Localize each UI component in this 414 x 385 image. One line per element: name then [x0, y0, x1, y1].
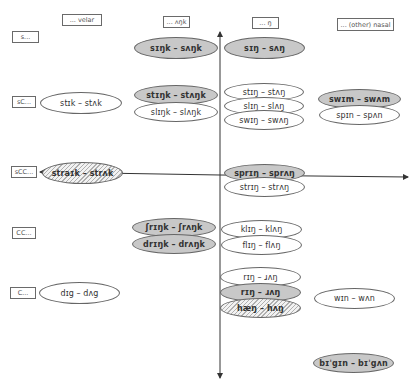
diagram-canvas: ... velar ... ʌŋk ... ŋ ... (other) nasa… [0, 0, 414, 385]
item-text: klɪŋ – klʌŋ [241, 225, 283, 234]
row-label-text: sCC... [15, 168, 34, 176]
column-header-label: ... ʌŋk [167, 18, 187, 26]
column-header-ank: ... ʌŋk [163, 16, 190, 28]
column-header-other-nasal: ... (other) nasal [337, 18, 394, 31]
item-string: strɪŋ – strʌŋ [224, 177, 305, 197]
item-stick: stɪk – stʌk [40, 92, 122, 114]
item-text: ʃrɪŋk – ʃrʌŋk [145, 223, 202, 232]
item-text: slɪŋk – slʌŋk [151, 108, 201, 117]
axes [0, 0, 414, 385]
item-strike: straɪk – strʌk [42, 162, 123, 184]
item-drink: drɪŋk – drʌŋk [132, 234, 216, 254]
column-header-label: ... velar [70, 16, 95, 24]
item-spin: spɪn – spʌn [319, 105, 400, 125]
row-label-s: s... [12, 31, 39, 43]
row-label-text: s... [21, 33, 31, 41]
item-text: straɪk – strʌk [52, 169, 114, 178]
item-text: flɪŋ – flʌŋ [242, 241, 280, 250]
item-sink: sɪŋk – sʌŋk [134, 37, 218, 59]
item-text: wɪn – wʌn [334, 294, 375, 303]
column-header-label: ... (other) nasal [341, 21, 391, 29]
column-header-label: ... ŋ [259, 19, 271, 27]
item-text: sɪŋk – sʌŋk [150, 44, 202, 53]
column-header-velar: ... velar [62, 14, 102, 26]
column-header-ng: ... ŋ [252, 17, 279, 29]
item-text: sɪŋ – sʌŋ [244, 44, 285, 53]
item-text: stɪŋ – stʌŋ [243, 88, 286, 97]
item-begin: bɪˈgɪn – bɪˈgʌn [313, 353, 394, 373]
row-label-text: sC... [17, 98, 31, 106]
item-text: bɪˈgɪn – bɪˈgʌn [319, 359, 388, 368]
item-dig: dɪg – dʌg [39, 282, 120, 304]
item-text: rɪŋ – ɹʌŋ [241, 288, 281, 297]
item-hang: hæŋ – hʌŋ [220, 298, 301, 318]
item-text: rɪŋ – ɹʌŋ [243, 273, 277, 282]
item-text: hæŋ – hʌŋ [237, 304, 284, 313]
item-text: dɪg – dʌg [60, 289, 98, 298]
row-label-sCC: sCC... [11, 166, 37, 178]
item-sing: sɪŋ – sʌŋ [224, 37, 305, 59]
item-text: drɪŋk – drʌŋk [143, 240, 205, 249]
item-win: wɪn – wʌn [314, 288, 395, 309]
row-label-CC: CC... [12, 227, 36, 239]
item-slink: slɪŋk – slʌŋk [134, 102, 218, 122]
item-text: stɪŋk – stʌŋk [146, 91, 206, 100]
row-label-sC: sC... [12, 96, 36, 108]
item-text: spɪn – spʌn [336, 111, 383, 120]
row-label-text: CC... [16, 229, 31, 237]
item-text: swɪm – swʌm [329, 95, 390, 104]
row-label-text: C... [18, 289, 29, 297]
row-label-C: C... [10, 287, 36, 299]
item-text: strɪŋ – strʌŋ [240, 183, 289, 192]
item-swing: swɪŋ – swʌŋ [224, 110, 304, 130]
item-fling: flɪŋ – flʌŋ [221, 235, 302, 255]
item-text: swɪŋ – swʌŋ [239, 116, 288, 125]
item-text: stɪk – stʌk [60, 99, 102, 108]
